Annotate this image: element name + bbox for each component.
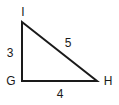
vertex-label-g: G	[6, 75, 15, 87]
triangle-outline	[22, 22, 97, 81]
side-length-label-base: 4	[57, 88, 64, 100]
vertex-label-i: I	[21, 6, 24, 18]
side-length-label-hypotenuse: 5	[65, 37, 72, 49]
vertex-label-h: H	[104, 75, 113, 87]
side-length-label-left-leg: 3	[7, 47, 14, 59]
triangle-figure: I G H 3 5 4	[0, 0, 119, 105]
